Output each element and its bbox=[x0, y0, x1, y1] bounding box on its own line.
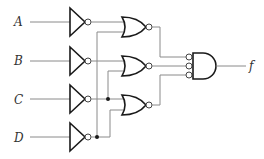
nor-gate-3 bbox=[122, 95, 152, 115]
nor-gate-1 bbox=[122, 17, 152, 37]
inverter-d bbox=[70, 123, 91, 151]
logic-circuit-diagram: A B C D bbox=[0, 0, 264, 159]
input-label-b: B bbox=[13, 54, 23, 68]
wire-nor3-to-and bbox=[152, 75, 186, 105]
input-label-d: D bbox=[13, 131, 24, 145]
junction-d bbox=[95, 135, 99, 139]
input-label-a: A bbox=[13, 15, 23, 29]
inverter-a bbox=[70, 8, 91, 36]
nor-gate-2 bbox=[122, 56, 152, 76]
output-label-f: f bbox=[248, 59, 256, 73]
wire-nor1-to-and bbox=[152, 27, 186, 57]
and-gate-output bbox=[186, 53, 216, 79]
input-label-c: C bbox=[14, 93, 23, 107]
inverter-b bbox=[70, 47, 91, 75]
inverter-c bbox=[70, 85, 91, 113]
junction-c bbox=[106, 97, 110, 101]
